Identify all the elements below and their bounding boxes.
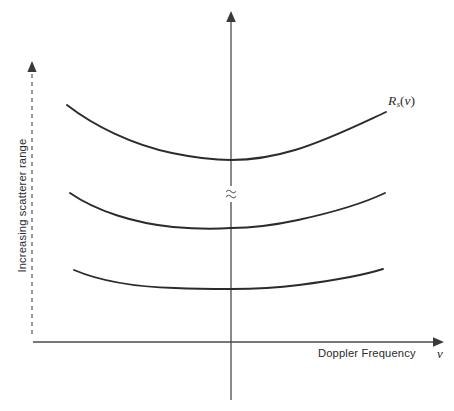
y-axis-label: Increasing scatterer range (17, 111, 28, 301)
increasing-range-arrow-icon (27, 61, 36, 72)
x-axis-label: Doppler Frequency (318, 348, 416, 359)
range-doppler-curve-3 (74, 269, 383, 289)
range-doppler-curve-1 (67, 105, 386, 160)
figure-root: Doppler Frequency ν Increasing scatterer… (0, 0, 454, 411)
y-axis-guide-group (27, 61, 36, 334)
curve-label-close-paren: ) (411, 93, 416, 108)
y-axis-break-icon (225, 186, 237, 202)
y-axis-arrow-icon (226, 11, 236, 22)
x-axis-group (33, 337, 444, 347)
curve-label-rs-nu: Rs(ν) (388, 94, 415, 109)
curve-label-base: R (388, 93, 396, 108)
x-axis-variable-label: ν (437, 347, 443, 360)
